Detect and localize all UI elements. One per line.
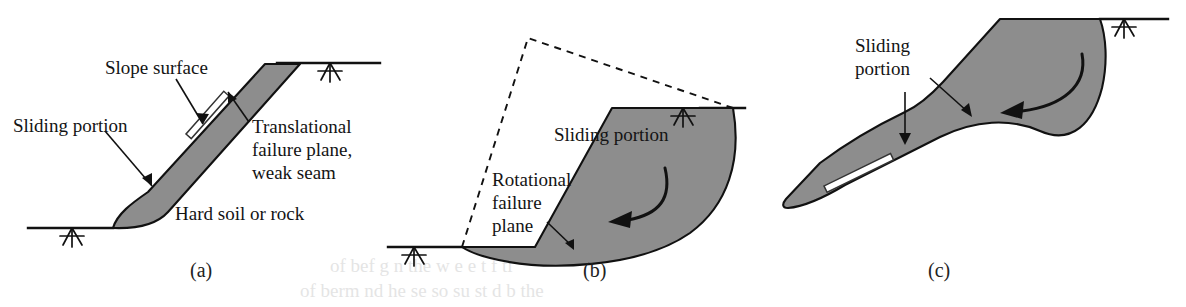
sliding-mass-c xyxy=(783,19,1105,208)
panel-b: Sliding portion Rotational failure plane… xyxy=(388,38,745,282)
caption-panel-c: (c) xyxy=(928,259,950,282)
label-failure-plane-a-line3: weak seam xyxy=(252,162,336,183)
ground-hatch-a-left xyxy=(60,228,84,247)
label-failure-plane-b-line2: failure xyxy=(492,192,542,213)
label-sliding-portion-c-line2: portion xyxy=(855,58,910,79)
ground-hatch-a-right xyxy=(318,63,342,82)
ground-hatch-c-crest xyxy=(1112,19,1136,38)
label-substrate-a: Hard soil or rock xyxy=(175,203,305,224)
figure-canvas: of bef g n the w e e t f ti of berm nd h… xyxy=(0,0,1186,307)
label-failure-plane-b-line3: plane xyxy=(492,215,533,236)
label-sliding-portion-a: Sliding portion xyxy=(13,115,128,136)
label-failure-plane-a-line2: failure plane, xyxy=(252,139,352,160)
label-sliding-portion-c-line1: Sliding xyxy=(855,35,910,56)
label-sliding-portion-b: Sliding portion xyxy=(554,124,669,145)
panel-a: Slope surface Sliding portion Translatio… xyxy=(13,57,380,282)
label-failure-plane-b-line1: Rotational xyxy=(492,169,571,190)
caption-panel-b: (b) xyxy=(583,259,606,282)
bleed-through-line-2: of berm nd he se so su st d b the xyxy=(300,280,544,301)
panel-c: Sliding portion (c) xyxy=(783,19,1168,282)
caption-panel-a: (a) xyxy=(190,259,212,282)
slope-failure-figure: of bef g n the w e e t f ti of berm nd h… xyxy=(0,0,1186,307)
label-slope-surface-a: Slope surface xyxy=(105,57,208,78)
label-failure-plane-a-line1: Translational xyxy=(252,116,352,137)
